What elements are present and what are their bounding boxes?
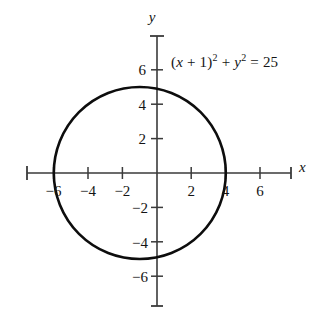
coordinate-plane: −6 −4 −2 2 4 6 6 4 2 −2 −4 −6 y x: [0, 0, 324, 314]
graph-figure: −6 −4 −2 2 4 6 6 4 2 −2 −4 −6 y x (x + 1…: [0, 0, 324, 314]
y-tick-label-2: 2: [139, 131, 147, 147]
x-tick-label--6: −6: [46, 183, 62, 199]
equation-equals-value: = 25: [246, 54, 278, 70]
equation-plus-one: + 1): [183, 54, 212, 70]
x-tick-label--2: −2: [114, 183, 130, 199]
x-tick-label-2: 2: [187, 183, 195, 199]
y-tick-label--6: −6: [132, 269, 148, 285]
equation-annotation: (x + 1)2 + y2 = 25: [171, 54, 278, 71]
y-tick-label-6: 6: [139, 62, 147, 78]
x-tick-label--4: −4: [80, 183, 96, 199]
y-axis-group: [150, 36, 164, 306]
y-axis-label: y: [147, 9, 156, 25]
y-tick-label-4: 4: [139, 97, 147, 113]
x-axis-label: x: [298, 159, 306, 175]
x-tick-label-6: 6: [256, 183, 264, 199]
equation-plus-sign: +: [218, 54, 235, 70]
x-tick-labels: −6 −4 −2 2 4 6: [46, 183, 265, 199]
y-tick-label--4: −4: [132, 235, 148, 251]
x-tick-label-4: 4: [222, 183, 230, 199]
x-axis-group: [27, 166, 291, 180]
y-tick-label--2: −2: [132, 200, 148, 216]
